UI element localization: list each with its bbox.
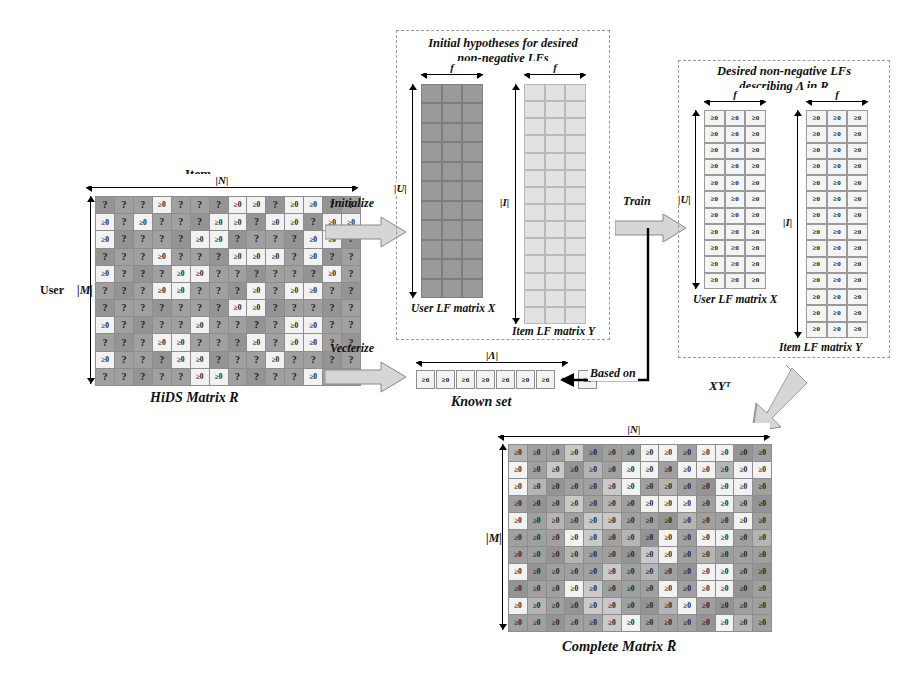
lf-cell: ≥0 xyxy=(704,143,725,159)
complete-cell: ≥0 xyxy=(659,462,677,478)
lf-cell xyxy=(565,153,586,170)
desired-user-height-arrow xyxy=(691,110,700,289)
hids-cell: ? xyxy=(115,231,133,247)
known-set-dimension-label: |Λ| xyxy=(483,349,501,361)
hids-cell: ? xyxy=(172,317,190,333)
hids-cell: ? xyxy=(247,214,265,230)
lf-cell xyxy=(524,84,545,101)
lf-cell xyxy=(524,153,545,170)
complete-cell: ≥0 xyxy=(659,445,677,461)
hids-cell: ≥0 xyxy=(247,197,265,213)
complete-cell: ≥0 xyxy=(659,496,677,512)
lf-cell xyxy=(545,204,566,221)
hids-cell: ? xyxy=(266,283,284,299)
lf-cell: ≥0 xyxy=(806,175,827,191)
hids-cell: ≥0 xyxy=(285,334,303,350)
hids-cell: ≥0 xyxy=(247,334,265,350)
complete-cell: ≥0 xyxy=(697,513,715,529)
complete-cell: ≥0 xyxy=(603,513,621,529)
complete-cell: ≥0 xyxy=(547,462,565,478)
lf-cell: ≥0 xyxy=(827,208,848,224)
hids-cell: ? xyxy=(229,369,247,385)
hids-cell: ? xyxy=(134,197,152,213)
complete-cell: ≥0 xyxy=(622,513,640,529)
lf-cell: ≥0 xyxy=(806,208,827,224)
complete-cell: ≥0 xyxy=(716,530,734,546)
hids-cell: ? xyxy=(191,300,209,316)
lf-cell: ≥0 xyxy=(806,126,827,142)
hids-cell: ? xyxy=(115,214,133,230)
lf-cell xyxy=(524,255,545,272)
complete-top-dimension-label: |N| xyxy=(625,423,644,435)
hids-cell: ≥0 xyxy=(153,334,171,350)
hids-cell: ? xyxy=(115,266,133,282)
init-item-width-label: f xyxy=(550,61,560,73)
complete-cell: ≥0 xyxy=(753,615,771,631)
hids-cell: ≥0 xyxy=(285,214,303,230)
hids-cell: ? xyxy=(210,317,228,333)
hids-cell: ≥0 xyxy=(96,231,114,247)
hids-cell: ≥0 xyxy=(229,249,247,265)
complete-cell: ≥0 xyxy=(584,564,602,580)
lf-cell: ≥0 xyxy=(847,257,868,273)
complete-cell: ≥0 xyxy=(547,445,565,461)
hids-cell: ≥0 xyxy=(323,266,341,282)
lf-cell: ≥0 xyxy=(745,273,766,289)
lf-cell: ≥0 xyxy=(704,175,725,191)
complete-cell: ≥0 xyxy=(659,581,677,597)
lf-cell: ≥0 xyxy=(704,126,725,142)
complete-cell: ≥0 xyxy=(584,547,602,563)
lf-cell xyxy=(421,181,442,200)
lf-cell xyxy=(421,103,442,122)
init-item-width-arrow: f xyxy=(524,70,586,79)
lf-cell: ≥0 xyxy=(725,191,746,207)
complete-cell: ≥0 xyxy=(565,564,583,580)
lf-cell xyxy=(421,279,442,298)
complete-cell: ≥0 xyxy=(547,581,565,597)
hids-cell: ? xyxy=(96,369,114,385)
hids-top-dimension-arrow: |N| xyxy=(86,183,358,192)
hids-cell: ? xyxy=(229,266,247,282)
complete-cell: ≥0 xyxy=(622,581,640,597)
based-on-arrow-label: Based on xyxy=(588,366,638,381)
lf-cell xyxy=(462,201,483,220)
complete-cell: ≥0 xyxy=(622,615,640,631)
hids-cell: ≥0 xyxy=(285,197,303,213)
lf-cell xyxy=(565,204,586,221)
hids-cell: ? xyxy=(153,300,171,316)
hids-cell: ? xyxy=(210,352,228,368)
lf-cell: ≥0 xyxy=(806,322,827,338)
complete-cell: ≥0 xyxy=(509,530,527,546)
complete-cell: ≥0 xyxy=(678,598,696,614)
hids-cell: ? xyxy=(134,231,152,247)
hids-cell: ? xyxy=(115,369,133,385)
hids-cell: ≥0 xyxy=(229,300,247,316)
lf-cell: ≥0 xyxy=(725,110,746,126)
lf-cell: ≥0 xyxy=(847,305,868,321)
complete-cell: ≥0 xyxy=(641,615,659,631)
hids-cell: ≥0 xyxy=(210,231,228,247)
hids-cell: ≥0 xyxy=(153,283,171,299)
lf-cell: ≥0 xyxy=(806,143,827,159)
complete-cell: ≥0 xyxy=(603,598,621,614)
initialize-arrow-label: Initialize xyxy=(330,196,374,211)
hids-cell: ≥0 xyxy=(96,352,114,368)
complete-cell: ≥0 xyxy=(716,496,734,512)
lf-cell: ≥0 xyxy=(704,110,725,126)
init-user-height-arrow xyxy=(408,84,417,298)
lf-cell: ≥0 xyxy=(704,256,725,272)
lf-cell: ≥0 xyxy=(847,273,868,289)
complete-cell: ≥0 xyxy=(734,615,752,631)
complete-cell: ≥0 xyxy=(603,615,621,631)
complete-cell: ≥0 xyxy=(641,564,659,580)
hids-cell: ≥0 xyxy=(247,300,265,316)
complete-cell: ≥0 xyxy=(528,615,546,631)
hids-cell: ≥0 xyxy=(304,283,322,299)
lf-cell xyxy=(524,204,545,221)
complete-cell: ≥0 xyxy=(716,513,734,529)
lf-cell: ≥0 xyxy=(704,191,725,207)
lf-cell: ≥0 xyxy=(725,224,746,240)
complete-cell: ≥0 xyxy=(716,462,734,478)
lf-cell xyxy=(545,187,566,204)
hids-cell: ? xyxy=(210,197,228,213)
